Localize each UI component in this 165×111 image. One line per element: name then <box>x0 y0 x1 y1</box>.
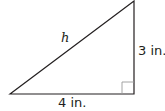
hypotenuse-label: h <box>61 31 69 44</box>
right-angle-marker <box>122 82 134 94</box>
right-triangle <box>10 1 134 94</box>
vertical-leg-label: 3 in. <box>138 44 165 57</box>
horizontal-leg-label: 4 in. <box>58 96 86 109</box>
